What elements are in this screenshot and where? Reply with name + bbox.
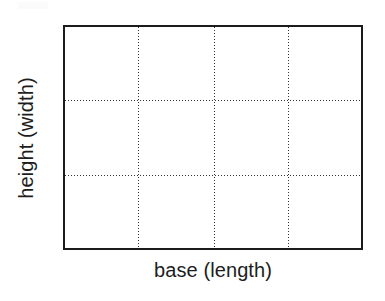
scan-artifact <box>18 2 48 9</box>
gridline-horizontal-1 <box>65 100 361 101</box>
figure-canvas: height (width) base (length) <box>0 0 385 301</box>
gridline-vertical-1 <box>138 27 139 248</box>
y-axis-label: height (width) <box>14 77 38 198</box>
y-axis-label-container: height (width) <box>4 25 48 250</box>
gridline-vertical-2 <box>214 27 215 248</box>
gridline-vertical-3 <box>288 27 289 248</box>
gridline-horizontal-2 <box>65 175 361 176</box>
plot-area-inner <box>65 27 361 248</box>
plot-area-frame <box>63 25 363 250</box>
x-axis-label: base (length) <box>63 258 363 282</box>
